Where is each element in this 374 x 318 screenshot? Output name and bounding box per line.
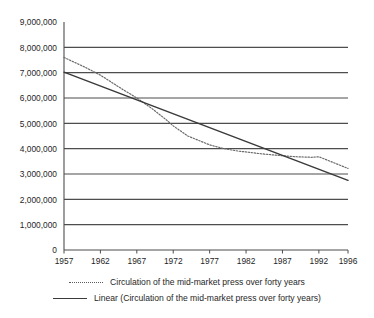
legend-item-circulation: Circulation of the mid-market press over… [69,276,305,289]
legend-item-linear-trend: Linear (Circulation of the mid-market pr… [53,292,321,305]
series-line-linear-trend [64,72,348,180]
series-line-circulation [64,57,348,168]
x-axis-tick-label: 1977 [200,256,219,266]
y-axis-tick-label: 4,000,000 [20,144,58,154]
y-axis-tick-label: 1,000,000 [20,220,58,230]
x-axis-tick-label: 1982 [237,256,256,266]
line-chart-plot: 01,000,0002,000,0003,000,0004,000,0005,0… [0,0,374,276]
x-axis-tick-label: 1967 [128,256,147,266]
x-axis-tick-label: 1957 [55,256,74,266]
chart-legend: Circulation of the mid-market press over… [0,276,374,305]
legend-swatch-dotted-line-icon [69,282,103,283]
y-axis-tick-labels: 01,000,0002,000,0003,000,0004,000,0005,0… [20,17,58,255]
legend-swatch-solid-line-icon [53,298,87,299]
legend-label-linear-trend: Linear (Circulation of the mid-market pr… [94,293,321,304]
y-axis-tick-label: 7,000,000 [20,68,58,78]
y-axis-tick-label: 9,000,000 [20,17,58,27]
series-group [64,57,348,180]
x-axis-tick-label: 1972 [164,256,183,266]
y-axis-tick-label: 5,000,000 [20,119,58,129]
y-axis-tick-label: 6,000,000 [20,93,58,103]
y-axis-tick-label: 0 [52,245,57,255]
x-axis-tick-label: 1962 [91,256,110,266]
y-axis-tick-label: 8,000,000 [20,43,58,53]
x-axis-tick-label: 1987 [273,256,292,266]
y-axis-tick-label: 2,000,000 [20,195,58,205]
chart-container: 01,000,0002,000,0003,000,0004,000,0005,0… [0,0,374,318]
y-axis-tick-label: 3,000,000 [20,169,58,179]
x-axis-tick-label: 1996 [339,256,358,266]
x-axis-tick-labels: 195719621967197219771982198719921996 [55,256,358,266]
axes-group [64,22,348,250]
gridlines-group [64,47,348,224]
legend-label-circulation: Circulation of the mid-market press over… [110,277,305,288]
x-axis-tick-label: 1992 [310,256,329,266]
